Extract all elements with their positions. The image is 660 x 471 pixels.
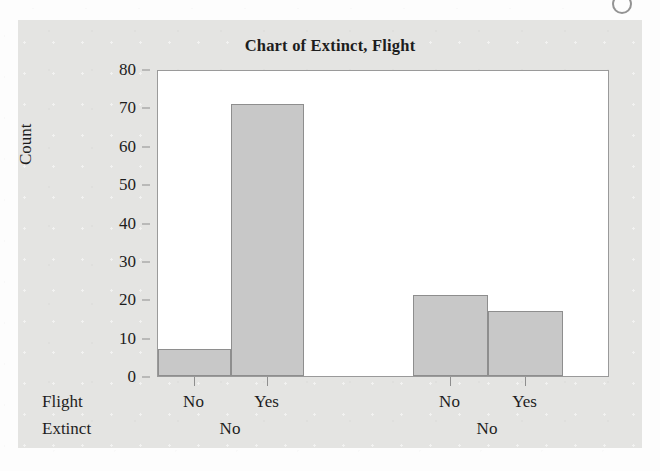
y-tick-label: 70 xyxy=(119,98,136,118)
x-level-label-flight: No xyxy=(439,392,460,412)
x-tick-mark xyxy=(450,377,451,386)
x-level-label-extinct: No xyxy=(477,419,498,439)
y-tick-mark xyxy=(142,300,150,301)
y-tick-label: 30 xyxy=(119,252,136,272)
axis-row-label-extinct: Extinct xyxy=(42,419,91,439)
bar xyxy=(488,311,563,376)
chart-title: Chart of Extinct, Flight xyxy=(18,36,642,56)
x-level-label-flight: Yes xyxy=(254,392,279,412)
y-tick-mark xyxy=(142,70,150,71)
y-tick-mark xyxy=(142,146,150,147)
figure-panel: Chart of Extinct, Flight Count 807060504… xyxy=(18,20,642,448)
bar xyxy=(158,349,231,376)
y-tick-label: 60 xyxy=(119,137,136,157)
x-tick-mark xyxy=(194,377,195,386)
y-tick-label: 50 xyxy=(119,175,136,195)
y-tick-mark xyxy=(142,185,150,186)
x-level-label-flight: Yes xyxy=(512,392,537,412)
x-tick-mark xyxy=(267,377,268,386)
y-tick-label: 40 xyxy=(119,214,136,234)
x-level-label-flight: No xyxy=(183,392,204,412)
y-tick-label: 10 xyxy=(119,329,136,349)
y-tick-label: 20 xyxy=(119,290,136,310)
y-tick-mark xyxy=(142,338,150,339)
bar xyxy=(413,295,488,376)
x-tick-mark xyxy=(525,377,526,386)
plot-area xyxy=(157,70,609,377)
axis-row-label-flight: Flight xyxy=(42,392,83,412)
y-tick-mark xyxy=(142,108,150,109)
x-level-label-extinct: No xyxy=(220,419,241,439)
y-tick-mark xyxy=(142,377,150,378)
y-tick-mark xyxy=(142,223,150,224)
y-axis-title: Count xyxy=(16,123,36,165)
y-axis: 80706050403020100 xyxy=(58,70,150,377)
bar xyxy=(231,104,304,376)
y-tick-label: 0 xyxy=(128,367,137,387)
y-tick-mark xyxy=(142,261,150,262)
y-tick-label: 80 xyxy=(119,60,136,80)
